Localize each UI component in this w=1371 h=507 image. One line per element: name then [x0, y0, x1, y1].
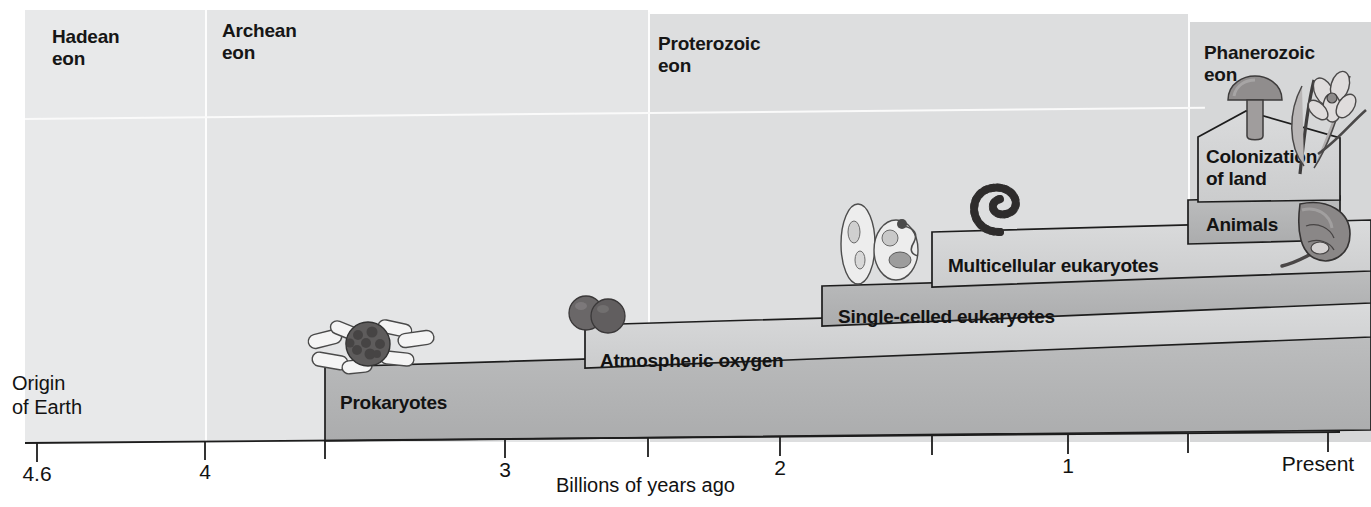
- multicellular-algae-icon: [962, 166, 1038, 240]
- horseshoe-crab-icon: [1276, 196, 1371, 292]
- origin-label: Origin of Earth: [12, 371, 82, 419]
- tick-label-4: 4: [181, 460, 229, 484]
- step-label-prokaryotes: Prokaryotes: [340, 392, 447, 414]
- eon-label-hadean: Hadean eon: [52, 26, 119, 71]
- step-label-single-celled-eukaryotes: Single-celled eukaryotes: [838, 306, 1055, 328]
- eon-label-archean: Archean eon: [222, 20, 297, 65]
- tick-label-4-6: 4.6: [7, 462, 67, 486]
- step-label-atmospheric-oxygen: Atmospheric oxygen: [600, 350, 783, 372]
- step-label-multicellular-eukaryotes: Multicellular eukaryotes: [948, 255, 1158, 277]
- eon-label-proterozoic: Proterozoic eon: [658, 33, 760, 78]
- tick-label-present: Present: [1268, 452, 1368, 476]
- eon-label-phanerozoic: Phanerozoic eon: [1204, 42, 1315, 87]
- prokaryote-cluster-icon: [306, 318, 446, 380]
- step-label-animals: Animals: [1206, 214, 1278, 236]
- tick-label-3: 3: [481, 458, 529, 482]
- timeline-figure: Hadean eon Archean eon Proterozoic eon P…: [0, 0, 1371, 507]
- tick-label-2: 2: [756, 456, 804, 480]
- axis-title: Billions of years ago: [556, 474, 735, 497]
- tick-label-1: 1: [1044, 454, 1092, 478]
- oxygen-molecule-icon: [568, 292, 630, 336]
- single-celled-protists-icon: [832, 198, 948, 290]
